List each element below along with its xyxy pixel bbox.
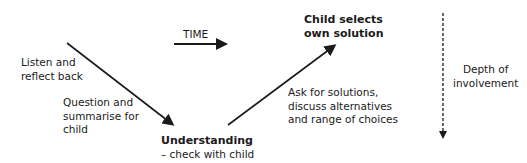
question-line-1: Question and <box>63 96 139 110</box>
child-selects-label: Child selects own solution <box>304 13 384 40</box>
question-line-3: child <box>63 123 139 137</box>
depth-line-2: involvement <box>453 77 518 91</box>
understanding-label: Understanding – check with child <box>161 134 254 161</box>
listen-line-2: reflect back <box>21 70 83 84</box>
depth-label: Depth of involvement <box>453 63 518 90</box>
ask-label: Ask for solutions, discuss alternatives … <box>288 86 398 127</box>
question-line-2: summarise for <box>63 110 139 124</box>
listen-line-1: Listen and <box>21 56 83 70</box>
ask-line-1: Ask for solutions, <box>288 86 398 100</box>
listen-label: Listen and reflect back <box>21 56 83 83</box>
understanding-title: Understanding <box>161 134 254 148</box>
ask-line-3: and range of choices <box>288 113 398 127</box>
ask-line-2: discuss alternatives <box>288 100 398 114</box>
depth-line-1: Depth of <box>453 63 518 77</box>
understanding-sub: – check with child <box>161 148 254 162</box>
child-selects-line-1: Child selects <box>304 13 384 27</box>
child-selects-line-2: own solution <box>304 27 384 41</box>
question-label: Question and summarise for child <box>63 96 139 137</box>
time-label: TIME <box>183 28 208 42</box>
